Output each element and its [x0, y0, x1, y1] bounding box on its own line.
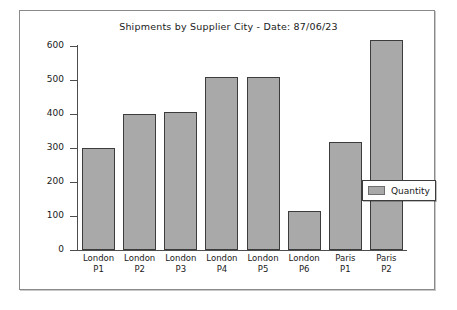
- y-tick-500: [70, 80, 77, 81]
- bar-london-p1: [82, 148, 115, 250]
- x-label-london-p5: LondonP5: [243, 253, 284, 275]
- y-axis-line: [77, 45, 78, 251]
- x-label-paris-p1: ParisP1: [325, 253, 366, 275]
- y-tick-600: [70, 46, 77, 47]
- x-axis-line: [77, 250, 407, 251]
- chart-page: Shipments by Supplier City - Date: 87/06…: [0, 0, 457, 310]
- y-tick-200: [70, 182, 77, 183]
- x-label-paris-p2: ParisP2: [366, 253, 407, 275]
- chart-legend: Quantity: [362, 180, 436, 201]
- plot-area: 0100200300400500600 LondonP1LondonP2Lond…: [0, 0, 457, 310]
- x-label-london-p3: LondonP3: [160, 253, 201, 275]
- bar-london-p6: [288, 211, 321, 250]
- y-tick-label-500: 500: [28, 75, 64, 84]
- bar-paris-p1: [329, 142, 362, 250]
- legend-swatch-quantity: [368, 186, 385, 195]
- x-label-london-p4: LondonP4: [201, 253, 242, 275]
- bar-paris-p2: [370, 40, 403, 250]
- y-tick-label-400: 400: [28, 109, 64, 118]
- y-tick-100: [70, 216, 77, 217]
- y-tick-label-600: 600: [28, 41, 64, 50]
- y-tick-label-100: 100: [28, 211, 64, 220]
- x-label-london-p2: LondonP2: [119, 253, 160, 275]
- y-tick-400: [70, 114, 77, 115]
- bar-london-p4: [205, 77, 238, 250]
- x-label-london-p6: LondonP6: [284, 253, 325, 275]
- x-label-london-p1: LondonP1: [78, 253, 119, 275]
- y-tick-label-300: 300: [28, 143, 64, 152]
- y-tick-label-200: 200: [28, 177, 64, 186]
- legend-label-quantity: Quantity: [391, 186, 430, 196]
- bar-london-p3: [164, 112, 197, 250]
- bar-london-p2: [123, 114, 156, 250]
- bar-london-p5: [247, 77, 280, 250]
- y-tick-label-0: 0: [28, 245, 64, 254]
- y-tick-300: [70, 148, 77, 149]
- y-tick-0: [70, 250, 77, 251]
